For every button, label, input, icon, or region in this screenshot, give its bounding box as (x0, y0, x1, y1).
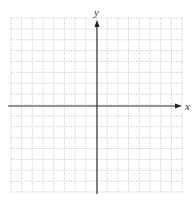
x-axis-label: x (184, 100, 190, 112)
axes (8, 20, 182, 194)
y-axis-arrow-icon (95, 20, 100, 27)
x-axis-arrow-icon (175, 104, 182, 109)
coordinate-grid: x y (0, 0, 196, 202)
y-axis-label: y (93, 6, 99, 18)
